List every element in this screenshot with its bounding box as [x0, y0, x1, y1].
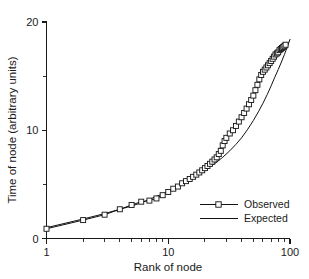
observed-data-point — [117, 207, 122, 212]
y-axis-title: Time of node (arbitrary units) — [6, 56, 18, 203]
chart-figure: 01020 110100 Rank of node Time of node (… — [0, 0, 309, 279]
observed-data-point — [139, 199, 144, 204]
y-tick-label: 0 — [32, 233, 38, 245]
x-axis-tick-labels: 110100 — [43, 246, 299, 258]
observed-data-point — [160, 193, 165, 198]
observed-data-point — [102, 212, 107, 217]
legend: Observed Expected — [200, 198, 290, 224]
y-axis-tick-labels: 01020 — [26, 16, 38, 245]
observed-data-point — [129, 202, 134, 207]
legend-observed-marker — [216, 202, 221, 207]
chart-plot-area: 01020 110100 Rank of node Time of node (… — [0, 0, 309, 279]
observed-data-point — [251, 93, 256, 98]
observed-data-point — [218, 148, 223, 153]
x-axis-title: Rank of node — [134, 261, 202, 273]
y-tick-label: 20 — [26, 16, 38, 28]
observed-data-point — [283, 42, 288, 47]
observed-data-point — [154, 196, 159, 201]
y-tick-label: 10 — [26, 124, 38, 136]
observed-data-point — [253, 88, 258, 93]
observed-data-point — [166, 189, 171, 194]
x-tick-label: 1 — [43, 246, 49, 258]
observed-data-point — [147, 198, 152, 203]
x-tick-label: 10 — [162, 246, 174, 258]
observed-data-point — [81, 218, 86, 223]
y-axis-group: 01020 — [26, 16, 46, 245]
x-axis-group: 110100 — [43, 239, 299, 258]
legend-label-expected: Expected — [244, 212, 288, 224]
legend-label-observed: Observed — [244, 198, 290, 210]
x-tick-label: 100 — [281, 246, 299, 258]
y-axis-major-ticks — [42, 22, 47, 239]
observed-data-point — [44, 226, 49, 231]
observed-data-point — [255, 82, 260, 87]
